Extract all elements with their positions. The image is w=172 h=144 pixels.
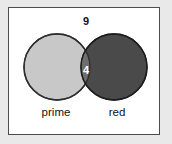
set-label-prime: prime [42,107,71,119]
venn-diagram-figure: 9 4 prime red [0,0,172,144]
intersection-count-label: 4 [83,65,89,76]
universe-count-label: 9 [83,16,89,27]
set-label-red: red [109,107,126,119]
